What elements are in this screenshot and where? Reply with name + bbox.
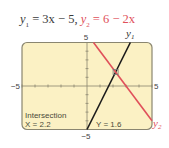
x-max-label: 5 [154,82,159,91]
calculator-graph: 5 −5 −5 5 y1 y2 Intersection X = 2.2 Y =… [0,0,169,148]
intersection-y-readout: Y = 1.6 [96,120,122,129]
x-min-label: −5 [11,82,21,91]
y-min-label: −5 [81,132,91,141]
y-max-label: 5 [84,33,89,42]
intersection-heading: Intersection [25,111,66,120]
series-label-y1: y1 [125,27,134,41]
intersection-x-readout: X = 2.2 [25,120,51,129]
series-label-y2: y2 [152,117,162,131]
